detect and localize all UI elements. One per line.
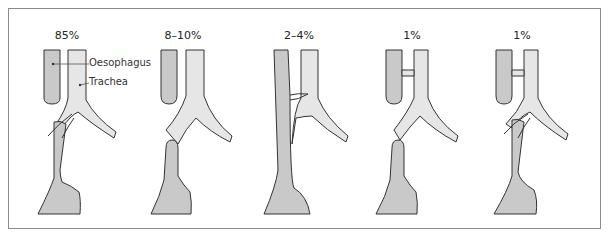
panel-2-diagram bbox=[151, 50, 232, 214]
panel-4-diagram bbox=[376, 50, 458, 214]
panel-5-frequency: 1% bbox=[513, 29, 530, 42]
panel-3-frequency: 2–4% bbox=[284, 29, 314, 42]
trachea-label: Trachea bbox=[89, 76, 128, 87]
trachea-leader-dot bbox=[79, 84, 81, 86]
panel-2-frequency: 8–10% bbox=[165, 29, 202, 42]
panel-5-diagram bbox=[494, 50, 568, 214]
oesophagus-leader-dot bbox=[52, 63, 54, 65]
oesophagus-label: Oesophagus bbox=[89, 57, 151, 68]
panel-4-frequency: 1% bbox=[403, 29, 420, 42]
panel-1-frequency: 85% bbox=[55, 29, 79, 42]
panel-1-diagram bbox=[38, 50, 116, 214]
panel-3-diagram bbox=[264, 50, 348, 214]
